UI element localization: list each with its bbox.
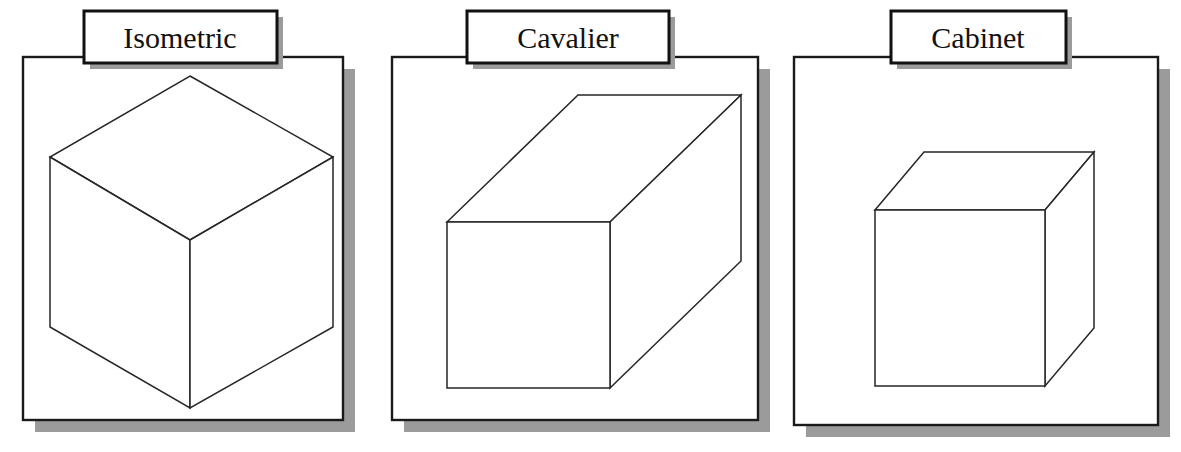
label-text-cabinet: Cabinet bbox=[931, 21, 1025, 54]
label-text-cavalier: Cavalier bbox=[517, 21, 619, 54]
cube-front-face bbox=[447, 222, 610, 388]
panel-isometric: Isometric bbox=[23, 11, 355, 432]
figure-canvas: IsometricCavalierCabinet bbox=[0, 0, 1181, 452]
label-text-isometric: Isometric bbox=[123, 21, 236, 54]
panel-cavalier: Cavalier bbox=[392, 11, 770, 432]
cube-front-face bbox=[875, 210, 1045, 386]
projection-figure: IsometricCavalierCabinet bbox=[0, 0, 1181, 452]
cube-cabinet bbox=[875, 152, 1094, 386]
panel-cabinet: Cabinet bbox=[794, 11, 1170, 437]
